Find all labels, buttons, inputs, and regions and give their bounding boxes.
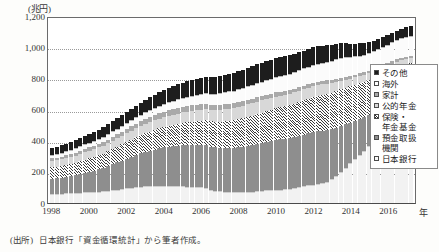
bar [246,68,250,203]
x-tick-label: 2016 [379,206,397,216]
bar [157,92,161,203]
bar-segment-for [348,57,352,76]
bar [223,75,227,203]
bar-segment-dep [50,179,54,194]
bar-segment-pub [148,122,152,132]
bar-segment-pub [260,100,264,112]
bar-segment-oth [190,80,194,96]
bar-segment-ins [120,144,124,160]
bar-segment-boj [274,190,278,203]
legend: その他海外家計公的年金保険・ 年金基金預金取扱 機関日本銀行 [370,64,438,169]
bar-segment-oth [344,43,348,57]
bar-segment-oth [78,138,82,146]
bar-segment-for [153,108,157,115]
bar-segment-pub [325,84,329,94]
bar-segment-dep [339,126,343,172]
bar-segment-boj [246,192,250,203]
bar-segment-for [232,91,236,104]
source-text: 日本銀行「資金循環統計」から筆者作成。 [39,235,206,245]
bar-segment-pub [288,94,292,105]
bar-segment-dep [358,119,362,155]
bar-segment-oth [134,106,138,118]
bar-segment-pub [320,84,324,94]
bar-segment-for [325,62,329,81]
y-tick-label: 400 [3,137,45,146]
bar-segment-ins [101,154,105,168]
bar-segment-for [385,45,389,64]
bar-segment-for [162,104,166,112]
bar-segment-dep [246,146,250,192]
bar-segment-oth [358,43,362,55]
bar-segment-ins [264,111,268,142]
x-axis-unit-label: 年 [419,206,428,219]
bar-segment-boj [143,186,147,203]
bar-segment-oth [195,79,199,95]
bar-segment-dep [362,117,366,150]
bar-segment-ins [181,123,185,145]
bar-segment-oth [213,77,217,94]
bar-segment-boj [269,190,273,203]
bar [362,43,366,203]
bar-segment-oth [69,142,73,149]
bar-segment-dep [60,178,64,194]
bar-segment-oth [390,33,394,43]
bar-segment-boj [190,187,194,203]
bar-segment-oth [74,140,78,148]
bar-segment-boj [97,192,101,203]
bar [87,134,91,203]
bar-segment-boj [74,193,78,203]
bar-segment-oth [129,109,133,121]
bar-segment-boj [292,188,296,203]
bar-segment-boj [157,186,161,203]
x-tick-label: 2010 [267,206,285,216]
bar-segment-ins [148,132,152,151]
bar-segment-boj [232,192,236,203]
bar-segment-boj [320,183,324,203]
bar-segment-boj [330,179,334,203]
bar [264,61,268,203]
bar-segment-oth [199,78,203,94]
bar-segment-dep [87,172,91,193]
bar-segment-pub [306,88,310,99]
bar-segment-pub [246,104,250,116]
bar-segment-for [339,58,343,78]
bar-segment-ins [204,120,208,145]
bar-segment-dep [181,145,185,186]
bar-segment-pub [330,83,334,93]
bar [302,51,306,203]
bar [162,90,166,203]
bar-segment-oth [148,97,152,110]
bar-segment-boj [302,186,306,203]
bar-segment-for [316,64,320,82]
legend-label: 保険・ 年金基金 [382,112,417,132]
bar-segment-dep [176,146,180,187]
bar-segment-pub [311,86,315,97]
bar-segment-ins [302,100,306,134]
bar [213,77,217,203]
bar-segment-oth [167,88,171,102]
bar-segment-oth [306,49,310,67]
bar-segment-pub [241,106,245,118]
bar-segment-ins [232,120,236,147]
bar-segment-oth [330,45,334,61]
bar-segment-ins [157,128,161,148]
bar-segment-boj [176,186,180,203]
bar-segment-dep [278,139,282,189]
bar [232,73,236,203]
bar-segment-pub [195,110,199,121]
x-tick-label: 2014 [342,206,360,216]
bar-segment-ins [87,158,91,171]
bar-segment-dep [162,147,166,185]
bar-segment-oth [250,66,254,85]
bar-segment-boj [199,187,203,203]
bar-segment-pub [153,120,157,130]
bar-segment-pub [125,133,129,142]
bar-segment-oth [181,83,185,98]
bar-segment-boj [55,194,59,203]
bar-segment-boj [223,192,227,203]
bar-segment-dep [171,146,175,186]
bar-segment-oth [204,77,208,94]
bar-segment-dep [69,176,73,193]
bar [278,57,282,203]
bar-segment-dep [78,174,82,193]
